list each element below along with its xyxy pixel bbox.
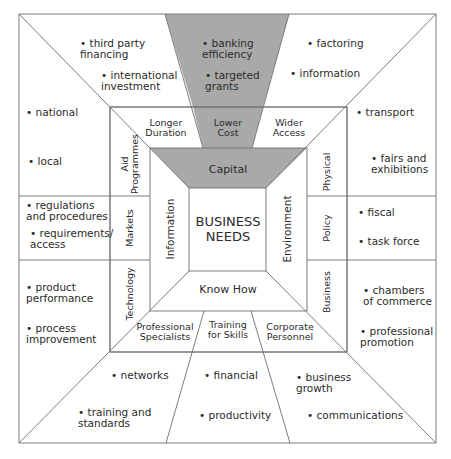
outer-item: • targeted grants [205, 70, 260, 92]
capital-funnel-outer [165, 14, 289, 107]
center-title: BUSINESS NEEDS [196, 214, 261, 244]
outer-item: • product performance [26, 282, 93, 304]
outer-item: • local [28, 156, 62, 167]
outer-item: • business growth [296, 372, 351, 394]
outer-item: • international investment [101, 70, 177, 92]
outer-item: • fairs and exhibitions [371, 153, 428, 175]
outer-item: • financial [204, 370, 258, 381]
middle-label-lower-cost: Lower Cost [214, 118, 242, 138]
outer-item: • productivity [199, 410, 271, 421]
middle-label-physical: Physical [322, 153, 332, 192]
outer-item: • transport [356, 107, 414, 118]
outer-item: • banking efficiency [202, 38, 254, 60]
outer-item: • requirements/ access [30, 228, 113, 250]
middle-label-training-for-skills: Training for Skills [208, 320, 248, 340]
inner-label-environment: Environment [282, 195, 293, 262]
outer-item: • national [26, 107, 78, 118]
middle-label-business: Business [322, 271, 332, 313]
middle-label-aid-programmes: Aid Programmes [120, 134, 140, 194]
inner-label-know-how: Know How [199, 284, 256, 296]
outer-item: • third party financing [80, 38, 145, 60]
middle-label-longer-duration: Longer Duration [145, 118, 186, 138]
inner-label-capital: Capital [209, 164, 248, 176]
middle-label-corporate-personnel: Corporate Personnel [266, 322, 314, 342]
outer-item: • chambers of commerce [363, 285, 432, 307]
outer-item: • professional promotion [360, 326, 433, 348]
middle-label-markets: Markets [125, 209, 135, 247]
outer-item: • regulations and procedures [26, 200, 108, 222]
middle-label-technology: Technology [125, 267, 135, 320]
outer-item: • networks [111, 370, 169, 381]
outer-item: • process improvement [26, 323, 96, 345]
outer-item: • task force [358, 236, 419, 247]
inner-label-information: Information [165, 199, 176, 260]
middle-label-wider-access: Wider Access [273, 118, 306, 138]
outer-item: • training and standards [78, 407, 151, 429]
outer-item: • information [290, 68, 360, 79]
middle-label-professional-specialists: Professional Specialists [136, 322, 193, 342]
middle-label-policy: Policy [322, 214, 332, 241]
outer-item: • factoring [307, 38, 364, 49]
outer-item: • fiscal [358, 207, 395, 218]
outer-item: • communications [307, 410, 403, 421]
